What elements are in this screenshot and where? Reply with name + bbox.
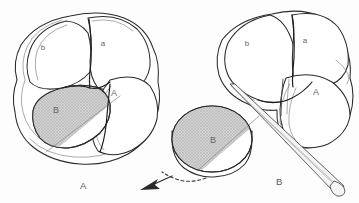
panel-a-caption: A: [80, 180, 87, 191]
panel-a-embryo: b a A B: [13, 13, 159, 164]
panel-a-cell-label-A: A: [111, 88, 117, 98]
embryo-diagram-svg: b a A B b: [0, 0, 359, 203]
panel-b-caption: B: [276, 176, 283, 187]
figure-root: b a A B b: [0, 0, 359, 203]
panel-a-cell-label-b: b: [41, 43, 46, 52]
panel-b-cell-label-A: A: [313, 87, 319, 97]
panel-b-cell-label-a: a: [303, 36, 308, 45]
removal-arrow-head: [140, 179, 160, 190]
glass-needle-blunt-end: [330, 181, 345, 196]
panel-b-cell-label-b: b: [245, 39, 250, 48]
isolated-blastomere-b: B: [165, 100, 262, 177]
panel-a-cell-label-a: a: [101, 39, 106, 48]
panel-a-cell-label-B: B: [53, 105, 59, 115]
isolated-b-label: B: [210, 135, 216, 145]
